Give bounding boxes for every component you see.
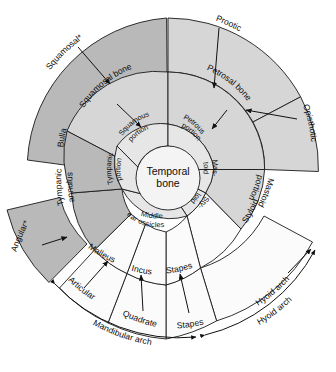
radial-diagram-canvas: Temporal bone Squamous portion Petrous p… [0,0,336,372]
inner-label-mastoid-line1: Mas- [210,159,220,177]
center-label-line2: bone [156,177,180,189]
inner-label-tympanic-portion-line2: portion [113,157,123,182]
center-label-line1: Temporal [146,165,189,177]
temporal-bone-radial-diagram: Temporal bone Squamous portion Petrous p… [0,0,336,372]
middle-label-tympanic-annulus-line1: Tympanic [53,168,66,207]
inner-label-mastoid-line2: toid [201,162,210,175]
